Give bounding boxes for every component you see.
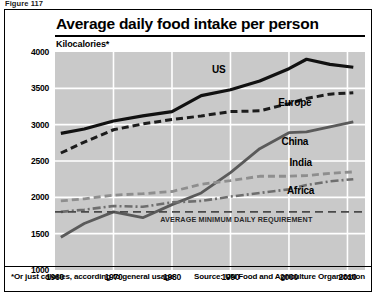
gridlines <box>55 52 365 270</box>
y-axis-unit-label: Kilocalories* <box>56 39 109 49</box>
series-label-china: China <box>281 135 308 146</box>
series-label-india: India <box>289 157 311 168</box>
y-tick-label-3000: 3000 <box>31 120 49 130</box>
y-tick-label-1500: 1500 <box>31 229 49 239</box>
title-divider <box>55 35 365 37</box>
plot-area: USEuropeChinaIndiaAfrica AVERAGE MINIMUM… <box>55 52 365 270</box>
page-title: Average daily food intake per person <box>56 15 319 33</box>
y-axis: 1000150020002500300035004000 <box>5 52 53 270</box>
y-tick-label-2500: 2500 <box>31 156 49 166</box>
y-tick-label-3500: 3500 <box>31 83 49 93</box>
series-label-europe: Europe <box>278 97 311 108</box>
y-tick-label-4000: 4000 <box>31 47 49 57</box>
figure-caption: Figure 117 <box>5 0 43 8</box>
chart-panel: Average daily food intake per person Kil… <box>4 9 372 292</box>
reference-line-label: AVERAGE MINIMUM DAILY REQUIREMENT <box>160 215 312 224</box>
series-paths <box>61 59 353 237</box>
series-label-us: US <box>212 64 226 75</box>
y-tick-label-2000: 2000 <box>31 192 49 202</box>
chart-plot-svg <box>55 52 365 270</box>
series-label-africa: Africa <box>287 185 314 196</box>
footer-divider <box>5 266 371 267</box>
source-note: Source: UN Food and Agriculture Organiza… <box>194 272 365 281</box>
footnote: *Or just calories, according to general … <box>11 272 174 281</box>
